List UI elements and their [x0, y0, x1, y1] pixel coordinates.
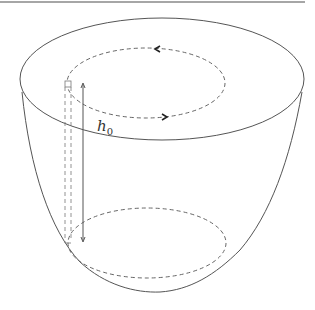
height-label: h0	[97, 117, 113, 137]
height-symbol: h	[97, 117, 107, 135]
free-surface-ellipse	[20, 18, 304, 140]
bowl-diagram: h0	[0, 0, 315, 310]
height-subscript: 0	[107, 126, 113, 137]
bottom-circulation-loop	[68, 208, 226, 278]
column-top-cap	[65, 81, 71, 87]
diagram-svg	[0, 0, 315, 310]
